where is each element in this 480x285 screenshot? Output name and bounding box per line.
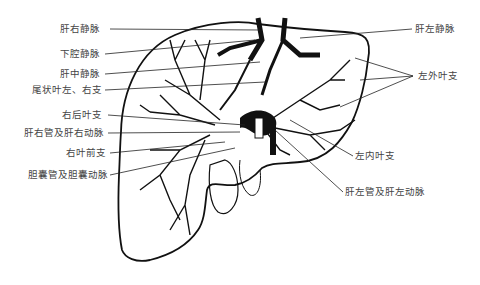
label-right-hepatic-vein: 肝右静脉 [60,23,100,34]
label-left-medial-branch: 左内叶支 [355,150,395,161]
liver-diagram [0,0,480,285]
label-inferior-vena-cava: 下腔静脉 [60,48,100,59]
label-middle-hepatic-vein: 肝中静脉 [60,68,100,79]
label-caudate-lobe-branches: 尾状叶左、右支 [32,84,102,95]
label-right-hepatic-duct-artery: 肝右管及肝右动脉 [24,127,104,138]
left-lobe-vessels [265,60,355,155]
label-cystic-duct-artery: 胆囊管及胆囊动脉 [28,169,108,180]
label-right-posterior-branch: 右后叶支 [62,109,102,120]
leader-lines [105,29,413,192]
right-lobe-vessels [140,40,220,235]
liver-outline [118,22,369,261]
label-left-hepatic-duct-artery: 肝左管及肝左动脉 [345,186,425,197]
label-left-lateral-branch: 左外叶支 [418,70,458,81]
label-left-hepatic-vein: 肝左静脉 [415,23,455,34]
label-right-anterior-branch: 右叶前支 [66,147,106,158]
gallbladder [209,160,238,213]
